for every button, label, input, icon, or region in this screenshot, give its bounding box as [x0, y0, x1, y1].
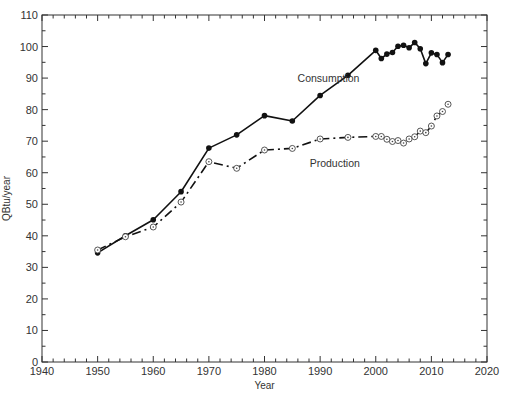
consumption-point — [401, 42, 407, 48]
production-point — [434, 113, 440, 119]
production-point — [262, 147, 268, 153]
x-tick-label: 2010 — [419, 365, 443, 377]
annotation-consumption: Consumption — [298, 72, 360, 84]
production-point — [406, 136, 412, 142]
production-point — [412, 134, 418, 140]
production-point — [206, 159, 212, 165]
consumption-point — [379, 56, 385, 62]
production-point — [317, 136, 323, 142]
x-tick-labels: 194019501960197019801990200020102020 — [30, 365, 499, 377]
consumption-point — [262, 113, 268, 119]
production-point — [384, 136, 390, 142]
consumption-point — [412, 40, 418, 46]
chart: 194019501960197019801990200020102020 010… — [0, 0, 506, 400]
consumption-point — [384, 51, 390, 57]
consumption-point — [178, 189, 184, 195]
consumption-point — [234, 132, 240, 138]
y-tick-label: 70 — [26, 135, 38, 147]
x-tick-label: 1950 — [85, 365, 109, 377]
consumption-point — [429, 50, 435, 56]
x-tick-label: 2020 — [475, 365, 499, 377]
axis-ticks — [42, 15, 487, 362]
consumption-point — [417, 46, 423, 52]
x-tick-label: 1970 — [197, 365, 221, 377]
y-tick-labels: 0102030405060708090100110 — [20, 9, 38, 368]
y-axis-title: QBtu/year — [1, 175, 12, 221]
consumption-point — [445, 52, 451, 58]
y-tick-label: 50 — [26, 198, 38, 210]
production-point — [373, 133, 379, 139]
production-point — [345, 134, 351, 140]
y-tick-label: 40 — [26, 230, 38, 242]
x-tick-label: 1980 — [252, 365, 276, 377]
consumption-point — [440, 60, 446, 66]
production-point — [395, 138, 401, 144]
consumption-point — [395, 43, 401, 49]
x-tick-label: 1990 — [308, 365, 332, 377]
y-tick-label: 80 — [26, 104, 38, 116]
consumption-point — [290, 118, 296, 124]
production-point — [428, 123, 434, 129]
consumption-point — [206, 145, 212, 151]
series-layer — [95, 40, 451, 256]
production-point — [389, 138, 395, 144]
y-tick-label: 100 — [20, 41, 38, 53]
consumption-point — [423, 61, 429, 67]
consumption-point — [150, 217, 156, 223]
x-axis-title: Year — [254, 380, 275, 391]
production-point — [401, 140, 407, 146]
production-point — [150, 224, 156, 230]
production-point — [95, 247, 101, 253]
y-tick-label: 110 — [20, 9, 38, 21]
consumption-point — [434, 52, 440, 58]
y-tick-label: 10 — [26, 324, 38, 336]
production-point — [289, 145, 295, 151]
consumption-point — [406, 45, 412, 51]
y-tick-label: 20 — [26, 293, 38, 305]
plot-frame — [42, 15, 487, 362]
y-tick-label: 60 — [26, 167, 38, 179]
production-point — [122, 234, 128, 240]
production-point — [178, 199, 184, 205]
production-point — [378, 133, 384, 139]
y-tick-label: 0 — [32, 356, 38, 368]
x-tick-label: 2000 — [364, 365, 388, 377]
production-point — [423, 130, 429, 136]
consumption-line — [98, 42, 449, 253]
consumption-point — [373, 48, 379, 54]
series-production — [95, 101, 451, 253]
consumption-point — [390, 50, 396, 56]
annotation-production: Production — [310, 157, 360, 169]
production-point — [417, 128, 423, 134]
consumption-point — [317, 93, 323, 99]
x-tick-label: 1960 — [141, 365, 165, 377]
y-tick-label: 90 — [26, 72, 38, 84]
production-point — [234, 165, 240, 171]
series-consumption — [95, 40, 451, 256]
y-tick-label: 30 — [26, 261, 38, 273]
production-point — [445, 101, 451, 107]
production-point — [440, 109, 446, 115]
